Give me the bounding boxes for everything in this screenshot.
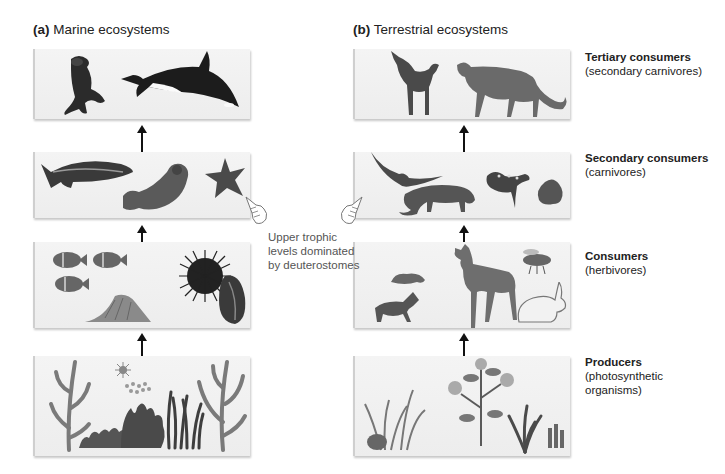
salamander-icon bbox=[485, 166, 533, 208]
frog-icon bbox=[535, 176, 565, 206]
level-subtitle: (carnivores) bbox=[585, 165, 708, 179]
marine-secondary-panel bbox=[33, 152, 250, 218]
marine-tertiary-panel bbox=[33, 49, 250, 119]
level-tertiary-consumers: Tertiary consumers (secondary carnivores… bbox=[585, 50, 702, 78]
level-title: Producers bbox=[585, 355, 663, 369]
wolf-icon bbox=[383, 49, 443, 117]
terrestrial-arrow-1 bbox=[463, 132, 465, 152]
grasshopper-icon bbox=[373, 292, 423, 322]
kelp-2-icon bbox=[195, 358, 249, 452]
level-producers: Producers (photosynthetic organisms) bbox=[585, 355, 663, 397]
pointing-hand-right-icon bbox=[338, 195, 364, 225]
level-consumers: Consumers (herbivores) bbox=[585, 249, 648, 277]
orca-icon bbox=[115, 49, 245, 117]
level-title: Tertiary consumers bbox=[585, 50, 702, 64]
grass-clump-icon bbox=[505, 404, 545, 454]
terrestrial-tertiary-panel bbox=[353, 49, 570, 119]
level-subtitle: (herbivores) bbox=[585, 263, 648, 277]
level-subtitle-2: organisms) bbox=[585, 383, 663, 397]
reef-fish-icon bbox=[51, 250, 135, 298]
weasel-icon bbox=[399, 180, 479, 216]
cougar-icon bbox=[453, 59, 569, 117]
sea-lion-icon bbox=[49, 53, 109, 115]
marine-letter: (a) bbox=[33, 22, 50, 37]
marine-producers-panel bbox=[33, 356, 250, 456]
caterpillar-icon bbox=[389, 272, 427, 286]
level-subtitle: (photosynthetic bbox=[585, 369, 663, 383]
marine-title: Marine ecosystems bbox=[53, 22, 169, 37]
annotation-line-3: by deuterostomes bbox=[268, 258, 378, 272]
plankton-icon bbox=[113, 362, 155, 398]
level-subtitle: (secondary carnivores) bbox=[585, 64, 702, 78]
marine-arrow-1 bbox=[141, 132, 143, 152]
bee-icon bbox=[515, 248, 555, 276]
sea-star-icon bbox=[203, 156, 247, 200]
annotation-line-1: Upper trophic bbox=[268, 230, 378, 244]
level-title: Secondary consumers bbox=[585, 151, 708, 165]
moss-icon bbox=[547, 422, 567, 448]
terrestrial-column-title: (b) Terrestrial ecosystems bbox=[353, 22, 508, 37]
rabbit-icon bbox=[515, 282, 567, 326]
terrestrial-title: Terrestrial ecosystems bbox=[374, 22, 508, 37]
shrub-icon bbox=[361, 386, 431, 452]
terrestrial-producers-panel bbox=[353, 356, 570, 456]
level-title: Consumers bbox=[585, 249, 648, 263]
seaweed-icon bbox=[117, 394, 169, 450]
deuterostome-annotation: Upper trophic levels dominated by deuter… bbox=[268, 230, 378, 272]
terrestrial-consumers-panel bbox=[353, 242, 570, 328]
terrestrial-letter: (b) bbox=[353, 22, 370, 37]
sea-slug-icon bbox=[83, 292, 153, 326]
sea-otter-icon bbox=[117, 162, 191, 212]
terrestrial-secondary-panel bbox=[353, 152, 570, 218]
level-secondary-consumers: Secondary consumers (carnivores) bbox=[585, 151, 708, 179]
annotation-line-2: levels dominated bbox=[268, 244, 378, 258]
pointing-hand-left-icon bbox=[244, 195, 270, 225]
mussel-icon bbox=[217, 272, 247, 326]
marine-consumers-panel bbox=[33, 242, 250, 328]
marine-column-title: (a) Marine ecosystems bbox=[33, 22, 170, 37]
deer-icon bbox=[451, 242, 519, 328]
